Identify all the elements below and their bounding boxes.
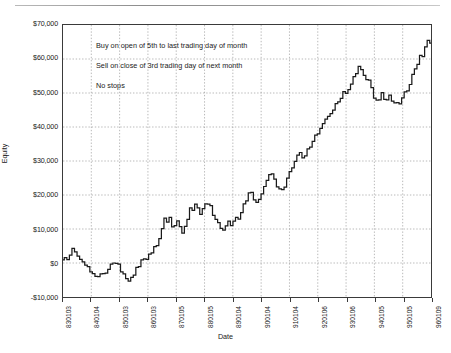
page-top-rule	[15, 5, 440, 6]
x-tick-label: 920106	[321, 306, 328, 328]
y-tick-label: $0	[2, 260, 58, 268]
x-tick-mark	[404, 298, 405, 302]
annotation-stops: No stops	[96, 82, 336, 89]
x-axis-title: Date	[0, 332, 451, 341]
x-tick-mark	[233, 298, 234, 302]
x-tick-mark	[204, 298, 205, 302]
x-tick-mark	[62, 298, 63, 302]
x-tick-mark	[318, 298, 319, 302]
x-tick-label: 850103	[122, 306, 129, 328]
x-tick-mark	[147, 298, 148, 302]
x-tick-label: 950105	[406, 306, 413, 328]
y-tick-label: $40,000	[2, 123, 58, 131]
x-tick-mark	[261, 298, 262, 302]
y-axis-tick-labels: $70,000$60,000$50,000$40,000$30,000$20,0…	[0, 24, 58, 298]
y-tick-label: $50,000	[2, 89, 58, 97]
x-tick-label: 930106	[349, 306, 356, 328]
y-tick-label: $20,000	[2, 191, 58, 199]
x-tick-mark	[290, 298, 291, 302]
x-tick-mark	[432, 298, 433, 302]
y-tick-label: $10,000	[2, 226, 58, 234]
x-tick-label: 960109	[435, 306, 442, 328]
annotation-sell-rule: Sell on close of 3rd trading day of next…	[96, 62, 336, 69]
x-tick-label: 860103	[150, 306, 157, 328]
y-tick-label: $30,000	[2, 157, 58, 165]
x-tick-mark	[347, 298, 348, 302]
y-tick-label: $70,000	[2, 20, 58, 28]
annotation-buy-rule: Buy on open of 5th to last trading day o…	[96, 42, 336, 49]
x-tick-mark	[375, 298, 376, 302]
y-tick-label: $60,000	[2, 54, 58, 62]
x-tick-label: 890104	[235, 306, 242, 328]
x-tick-label: 900104	[264, 306, 271, 328]
chart-page: Equity $70,000$60,000$50,000$40,000$30,0…	[0, 0, 451, 353]
x-tick-label: 830103	[65, 306, 72, 328]
x-tick-label: 870105	[178, 306, 185, 328]
y-tick-label: -$10,000	[2, 294, 58, 302]
x-tick-label: 880105	[207, 306, 214, 328]
x-tick-mark	[176, 298, 177, 302]
x-tick-mark	[119, 298, 120, 302]
x-tick-label: 910104	[292, 306, 299, 328]
chart-annotations: Buy on open of 5th to last trading day o…	[96, 42, 336, 101]
x-tick-label: 840104	[93, 306, 100, 328]
x-tick-label: 940105	[378, 306, 385, 328]
x-tick-mark	[90, 298, 91, 302]
